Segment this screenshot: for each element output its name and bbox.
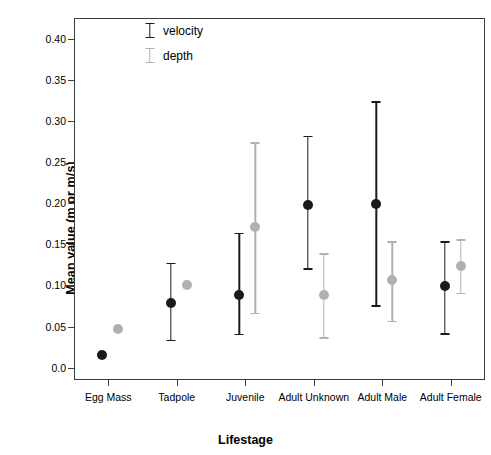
- error-bar-cap-lower: [319, 337, 328, 338]
- data-point: [319, 290, 329, 300]
- error-bar-cap-upper: [303, 136, 312, 137]
- x-tick-label: Tadpole: [158, 391, 195, 403]
- error-bar-cap-lower: [456, 293, 465, 294]
- error-bar-line: [239, 233, 240, 334]
- y-tick-label: 0.15: [26, 238, 66, 250]
- error-bar-cap-lower: [372, 305, 381, 306]
- data-point: [440, 281, 450, 291]
- error-bar-cap-lower: [251, 313, 260, 314]
- data-point: [303, 200, 313, 210]
- error-bar-cap-upper: [456, 239, 465, 240]
- y-tick-label: 0.0: [26, 362, 66, 374]
- y-tick-label: 0.20: [26, 197, 66, 209]
- y-tick-label: 0.30: [26, 115, 66, 127]
- x-tick-mark: [177, 380, 178, 386]
- x-tick-label: Adult Male: [357, 391, 407, 403]
- data-point: [456, 261, 466, 271]
- error-bar-cap-upper: [440, 241, 449, 242]
- data-point: [250, 222, 260, 232]
- x-tick-mark: [108, 380, 109, 386]
- error-bar-cap-lower: [235, 334, 244, 335]
- x-tick-label: Adult Female: [420, 391, 482, 403]
- legend-errorbar-icon: [145, 48, 154, 63]
- y-tick-label: 0.10: [26, 279, 66, 291]
- error-bar-cap-lower: [388, 321, 397, 322]
- data-point: [387, 275, 397, 285]
- error-bar-cap-lower: [303, 268, 312, 269]
- y-tick-label: 0.40: [26, 33, 66, 45]
- error-bar-cap-upper: [388, 241, 397, 242]
- error-bar-cap-upper: [166, 263, 175, 264]
- legend-label: velocity: [163, 24, 203, 38]
- error-bar-cap-upper: [251, 142, 260, 143]
- x-tick-label: Juvenile: [226, 391, 265, 403]
- data-point: [234, 290, 244, 300]
- x-tick-mark: [451, 380, 452, 386]
- legend-label: depth: [163, 49, 193, 63]
- error-bar-cap-upper: [235, 233, 244, 234]
- y-tick-label: 0.05: [26, 321, 66, 333]
- x-tick-mark: [314, 380, 315, 386]
- x-tick-mark: [382, 380, 383, 386]
- chart-figure: Mean value (m or m/s) Lifestage 0.00.050…: [0, 0, 491, 455]
- x-tick-label: Egg Mass: [85, 391, 132, 403]
- error-bar-cap-lower: [166, 340, 175, 341]
- data-point: [166, 298, 176, 308]
- error-bar-cap-upper: [319, 253, 328, 254]
- x-axis-label: Lifestage: [0, 433, 491, 447]
- y-tick-label: 0.35: [26, 74, 66, 86]
- data-point: [182, 280, 192, 290]
- x-tick-label: Adult Unknown: [278, 391, 349, 403]
- data-point: [97, 350, 107, 360]
- data-point: [113, 324, 123, 334]
- plot-area: velocitydepth: [74, 18, 485, 380]
- error-bar-cap-upper: [372, 101, 381, 102]
- error-bar-cap-lower: [440, 333, 449, 334]
- y-tick-label: 0.25: [26, 156, 66, 168]
- legend-item: velocity: [145, 23, 203, 38]
- legend-item: depth: [145, 48, 193, 63]
- data-point: [371, 199, 381, 209]
- x-tick-mark: [245, 380, 246, 386]
- legend-errorbar-icon: [145, 23, 154, 38]
